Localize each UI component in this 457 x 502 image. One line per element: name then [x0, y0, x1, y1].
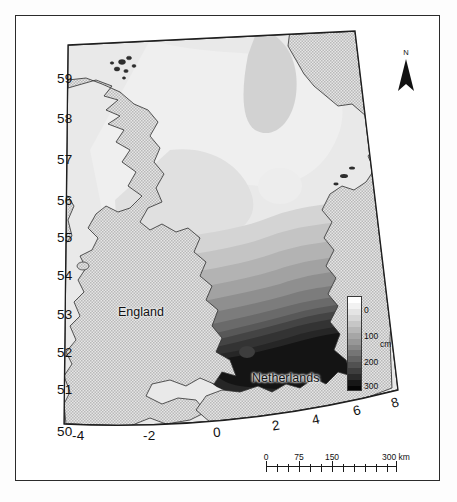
- legend: 0100200300 cm: [347, 296, 403, 394]
- legend-tick-100: 100: [364, 332, 378, 340]
- longitude-tick-0: 0: [212, 425, 221, 441]
- legend-tick-300: 300: [364, 382, 378, 390]
- latitude-tick-53: 53: [57, 307, 72, 322]
- legend-tick-0: 0: [364, 306, 369, 314]
- north-arrow-label: N: [391, 48, 421, 57]
- longitude-tick--4: -4: [72, 428, 84, 443]
- latitude-tick-51: 51: [57, 382, 72, 397]
- scale-bar: 075150300 km: [266, 452, 396, 478]
- scale-tick-major: [332, 461, 333, 472]
- figure-container: 59585756555453525150 -4-202468 EnglandNe…: [0, 0, 457, 502]
- longitude-tick--2: -2: [143, 428, 155, 443]
- legend-colorbar: [347, 296, 362, 391]
- north-arrow: N: [391, 48, 421, 94]
- latitude-tick-50: 50: [57, 424, 72, 439]
- latitude-tick-54: 54: [57, 268, 72, 283]
- latitude-tick-57: 57: [57, 152, 72, 167]
- scale-tick-major: [266, 461, 267, 472]
- scale-label-2: 150: [325, 452, 339, 462]
- scale-tick-minor: [343, 464, 344, 472]
- latitude-tick-59: 59: [57, 71, 72, 86]
- scale-tick-minor: [321, 464, 322, 472]
- land-isle: [77, 262, 89, 270]
- latitude-tick-56: 56: [57, 193, 72, 208]
- scale-label-0: 0: [264, 452, 269, 462]
- scale-label-3: 300 km: [382, 452, 410, 462]
- scale-tick-minor: [310, 464, 311, 472]
- scale-label-1: 75: [294, 452, 303, 462]
- legend-tick-200: 200: [364, 358, 378, 366]
- scale-tick-major: [396, 461, 397, 472]
- latitude-tick-58: 58: [57, 111, 72, 126]
- contour-pocket-light: [258, 168, 302, 204]
- legend-band-15: [348, 386, 361, 391]
- place-label-england: England: [118, 305, 164, 319]
- contour-pocket-dark: [239, 346, 255, 358]
- north-arrow-icon: [391, 57, 421, 95]
- scale-tick-minor: [288, 464, 289, 472]
- scale-tick-minor: [376, 464, 377, 472]
- scale-tick-major: [299, 461, 300, 472]
- latitude-tick-52: 52: [57, 345, 72, 360]
- scale-tick-minor: [365, 464, 366, 472]
- place-label-netherlands: Netherlands: [252, 371, 319, 385]
- scale-tick-minor: [354, 464, 355, 472]
- legend-unit-label: cm: [380, 339, 391, 349]
- scale-tick-minor: [387, 464, 388, 472]
- scale-tick-minor: [277, 464, 278, 472]
- latitude-tick-55: 55: [57, 230, 72, 245]
